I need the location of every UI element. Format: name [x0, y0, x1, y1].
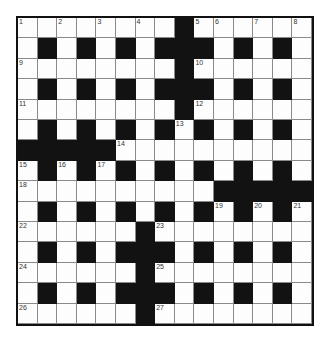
grid-cell[interactable]: [194, 263, 214, 283]
grid-cell[interactable]: [57, 222, 77, 242]
grid-cell[interactable]: 3: [96, 18, 116, 38]
grid-cell[interactable]: [175, 181, 195, 201]
grid-cell[interactable]: [77, 59, 97, 79]
grid-cell[interactable]: [57, 59, 77, 79]
grid-cell[interactable]: [18, 120, 38, 140]
grid-cell[interactable]: [292, 79, 312, 99]
grid-cell[interactable]: [136, 38, 156, 58]
grid-cell[interactable]: 11: [18, 100, 38, 120]
grid-cell[interactable]: 2: [57, 18, 77, 38]
grid-cell[interactable]: [253, 283, 273, 303]
grid-cell[interactable]: 10: [194, 59, 214, 79]
grid-cell[interactable]: [96, 263, 116, 283]
grid-cell[interactable]: [116, 59, 136, 79]
grid-cell[interactable]: 14: [116, 140, 136, 160]
grid-cell[interactable]: [136, 140, 156, 160]
grid-cell[interactable]: [96, 242, 116, 262]
grid-cell[interactable]: [273, 100, 293, 120]
grid-cell[interactable]: [214, 59, 234, 79]
grid-cell[interactable]: [18, 79, 38, 99]
grid-cell[interactable]: [194, 140, 214, 160]
grid-cell[interactable]: [234, 18, 254, 38]
grid-cell[interactable]: [292, 38, 312, 58]
grid-cell[interactable]: 1: [18, 18, 38, 38]
grid-cell[interactable]: [77, 304, 97, 324]
grid-cell[interactable]: [57, 100, 77, 120]
grid-cell[interactable]: [38, 181, 58, 201]
grid-cell[interactable]: [292, 304, 312, 324]
grid-cell[interactable]: [136, 181, 156, 201]
grid-cell[interactable]: [253, 79, 273, 99]
grid-cell[interactable]: [38, 59, 58, 79]
grid-cell[interactable]: [234, 304, 254, 324]
grid-cell[interactable]: 22: [18, 222, 38, 242]
grid-cell[interactable]: 21: [292, 202, 312, 222]
grid-cell[interactable]: [18, 242, 38, 262]
grid-cell[interactable]: [116, 100, 136, 120]
grid-cell[interactable]: [253, 242, 273, 262]
grid-cell[interactable]: [38, 304, 58, 324]
grid-cell[interactable]: [18, 202, 38, 222]
grid-cell[interactable]: 12: [194, 100, 214, 120]
grid-cell[interactable]: [253, 100, 273, 120]
grid-cell[interactable]: 15: [18, 161, 38, 181]
grid-cell[interactable]: [57, 242, 77, 262]
grid-cell[interactable]: [136, 202, 156, 222]
grid-cell[interactable]: 5: [194, 18, 214, 38]
grid-cell[interactable]: [175, 202, 195, 222]
grid-cell[interactable]: [155, 18, 175, 38]
grid-cell[interactable]: [57, 283, 77, 303]
grid-cell[interactable]: [292, 242, 312, 262]
grid-cell[interactable]: 18: [18, 181, 38, 201]
grid-cell[interactable]: 13: [175, 120, 195, 140]
grid-cell[interactable]: 19: [214, 202, 234, 222]
grid-cell[interactable]: [155, 140, 175, 160]
grid-cell[interactable]: [57, 120, 77, 140]
grid-cell[interactable]: [273, 59, 293, 79]
grid-cell[interactable]: [292, 140, 312, 160]
grid-cell[interactable]: [175, 222, 195, 242]
grid-cell[interactable]: [136, 161, 156, 181]
grid-cell[interactable]: 16: [57, 161, 77, 181]
grid-cell[interactable]: [57, 202, 77, 222]
grid-cell[interactable]: [273, 140, 293, 160]
grid-cell[interactable]: 6: [214, 18, 234, 38]
grid-cell[interactable]: [96, 100, 116, 120]
grid-cell[interactable]: [96, 222, 116, 242]
grid-cell[interactable]: [214, 79, 234, 99]
grid-cell[interactable]: [273, 18, 293, 38]
grid-cell[interactable]: [273, 222, 293, 242]
grid-cell[interactable]: [253, 38, 273, 58]
grid-cell[interactable]: [292, 283, 312, 303]
grid-cell[interactable]: [116, 222, 136, 242]
grid-cell[interactable]: 26: [18, 304, 38, 324]
grid-cell[interactable]: [96, 38, 116, 58]
grid-cell[interactable]: [253, 140, 273, 160]
grid-cell[interactable]: [292, 100, 312, 120]
grid-cell[interactable]: [77, 18, 97, 38]
grid-cell[interactable]: [116, 304, 136, 324]
grid-cell[interactable]: [194, 222, 214, 242]
grid-cell[interactable]: [234, 140, 254, 160]
grid-cell[interactable]: [38, 100, 58, 120]
grid-cell[interactable]: [57, 263, 77, 283]
grid-cell[interactable]: 4: [136, 18, 156, 38]
grid-cell[interactable]: [38, 18, 58, 38]
grid-cell[interactable]: [253, 263, 273, 283]
grid-cell[interactable]: [234, 263, 254, 283]
grid-cell[interactable]: [214, 222, 234, 242]
grid-cell[interactable]: [96, 120, 116, 140]
grid-cell[interactable]: [175, 304, 195, 324]
grid-cell[interactable]: [292, 120, 312, 140]
grid-cell[interactable]: [214, 304, 234, 324]
grid-cell[interactable]: 25: [155, 263, 175, 283]
grid-cell[interactable]: 9: [18, 59, 38, 79]
grid-cell[interactable]: [155, 100, 175, 120]
grid-cell[interactable]: [136, 120, 156, 140]
grid-cell[interactable]: [136, 79, 156, 99]
grid-cell[interactable]: [292, 59, 312, 79]
grid-cell[interactable]: [57, 304, 77, 324]
grid-cell[interactable]: [96, 59, 116, 79]
grid-cell[interactable]: [77, 263, 97, 283]
grid-cell[interactable]: [253, 59, 273, 79]
